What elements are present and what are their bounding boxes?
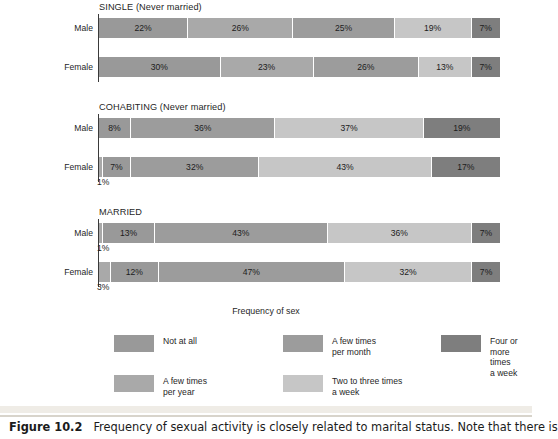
bar-segment [99,262,111,282]
bar-segment: 8% [99,118,131,138]
bar-segment-value: 36% [391,229,408,238]
bar-segment-value: 26% [232,24,249,33]
bar-segment: 36% [131,118,275,138]
stacked-bar-single-female: 30%23%26%13%7% [99,57,500,77]
annotation-married-male-1pct: 1% [97,243,109,253]
bar-segment: 7% [103,157,131,177]
panel-title-single: SINGLE (Never married) [99,2,202,12]
bar-segment: 47% [159,262,346,282]
legend-label-few-times-per-month: A few times per month [332,335,376,357]
row-label-single-male: Male [33,23,93,33]
bar-segment-value: 23% [258,63,275,72]
legend-item-not-at-all: Not at all [114,335,197,352]
bar-segment-value: 43% [336,163,353,172]
bar-segment-value: 8% [108,124,120,133]
figure-number: Figure 10.2 [9,420,82,434]
bar-segment: 13% [419,57,472,77]
row-label-married-male: Male [33,228,93,238]
panel-title-cohabiting: COHABITING (Never married) [99,102,226,112]
bar-segment-value: 7% [480,63,492,72]
bar-segment-value: 22% [134,24,151,33]
row-label-married-female: Female [33,267,93,277]
bar-segment-value: 43% [232,229,249,238]
legend-swatch-four-or-more-times-a-week [441,335,481,352]
bar-segment-value: 13% [436,63,453,72]
row-label-cohabiting-female: Female [33,162,93,172]
chart-panel-single: SINGLE (Never married) Male 22%26%25%19%… [0,0,532,92]
bar-segment-value: 26% [357,63,374,72]
legend-label-few-times-per-year: A few times per year [163,375,207,397]
bar-segment: 12% [111,262,159,282]
bar-segment-value: 19% [453,124,470,133]
chart-panel-cohabiting: COHABITING (Never married) Male 8%36%37%… [0,100,532,192]
bar-segment-value: 30% [151,63,168,72]
bar-segment: 13% [103,223,155,243]
legend-label-not-at-all: Not at all [163,335,197,347]
legend-swatch-not-at-all [114,335,154,352]
caption-divider [0,406,532,413]
bar-segment-value: 7% [110,163,122,172]
bar-segment-value: 7% [480,24,492,33]
bar-segment: 32% [131,157,259,177]
legend-title: Frequency of sex [0,306,532,316]
bar-segment: 17% [432,157,500,177]
legend-item-four-or-more-times-a-week: Four or more times a week [441,335,532,378]
legend-item-few-times-per-year: A few times per year [114,375,207,397]
stacked-bar-cohabiting-male: 8%36%37%19% [99,118,500,138]
bar-segment: 7% [472,18,500,38]
stacked-bar-cohabiting-female: 7%32%43%17% [99,157,500,177]
bar-segment: 19% [395,18,472,38]
bar-segment: 7% [472,262,500,282]
legend-swatch-two-to-three-times-a-week [283,375,323,392]
stacked-bar-married-female: 12%47%32%7% [99,262,500,282]
figure-caption: Figure 10.2Frequency of sexual activity … [9,420,529,434]
row-label-cohabiting-male: Male [33,123,93,133]
bar-segment: 26% [188,18,293,38]
bar-segment-value: 12% [126,268,143,277]
bar-segment: 7% [472,223,500,243]
bar-segment-value: 25% [335,24,352,33]
bar-segment: 19% [424,118,500,138]
annotation-married-female-3pct: 3% [97,282,109,292]
figure-caption-bar: Figure 10.2Frequency of sexual activity … [0,415,532,439]
bar-segment: 36% [328,223,472,243]
stacked-bar-married-male: 13%43%36%7% [99,223,500,243]
bar-segment-value: 36% [194,124,211,133]
bar-segment-value: 32% [186,163,203,172]
legend-swatch-few-times-per-month [283,335,323,352]
stacked-bar-single-male: 22%26%25%19%7% [99,18,500,38]
bar-segment-value: 19% [424,24,441,33]
bar-segment: 22% [99,18,188,38]
legend-item-few-times-per-month: A few times per month [283,335,376,357]
bar-segment-value: 37% [341,124,358,133]
chart-panel-married: MARRIED Male 13%43%36%7% 1% Female 12%47… [0,205,532,297]
bar-segment-value: 47% [243,268,260,277]
bar-segment: 43% [259,157,431,177]
bar-segment: 32% [345,262,472,282]
bar-segment: 26% [314,57,419,77]
legend-label-four-or-more-times-a-week: Four or more times a week [490,335,532,378]
bar-segment-value: 32% [400,268,417,277]
bar-segment: 23% [221,57,314,77]
bar-segment-value: 7% [480,229,492,238]
bar-segment: 43% [155,223,327,243]
figure-caption-text: Frequency of sexual activity is closely … [93,420,557,434]
legend-item-two-to-three-times-a-week: Two to three times a week [283,375,402,397]
bar-segment: 30% [99,57,221,77]
bar-segment-value: 17% [457,163,474,172]
row-label-single-female: Female [33,62,93,72]
bar-segment: 37% [275,118,423,138]
legend-swatch-few-times-per-year [114,375,154,392]
bar-segment-value: 7% [480,268,492,277]
bar-segment: 7% [472,57,500,77]
bar-segment-value: 13% [120,229,137,238]
panel-title-married: MARRIED [99,207,142,217]
bar-segment: 25% [293,18,394,38]
legend-label-two-to-three-times-a-week: Two to three times a week [332,375,402,397]
annotation-cohabiting-female-1pct: 1% [97,177,109,187]
